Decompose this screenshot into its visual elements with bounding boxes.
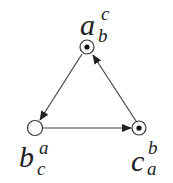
- label-node-b: b a c: [19, 142, 34, 172]
- label-superscript: b: [148, 138, 158, 157]
- label-superscript: c: [101, 4, 109, 23]
- label-superscript: a: [39, 138, 49, 157]
- node-b: [28, 121, 43, 136]
- label-base: a: [80, 8, 95, 41]
- label-node-a: a c b: [80, 10, 95, 40]
- label-base: c: [131, 144, 144, 177]
- node-a: [80, 40, 94, 54]
- label-subscript: c: [37, 159, 45, 178]
- label-base: b: [19, 140, 34, 173]
- node-c: [132, 121, 146, 135]
- label-subscript: b: [98, 26, 108, 45]
- label-node-c: c b a: [131, 146, 144, 176]
- edge-a-to-b: [40, 54, 82, 120]
- dot-icon: [84, 44, 89, 49]
- dot-icon: [136, 125, 141, 130]
- edge-c-to-a: [93, 55, 136, 121]
- label-subscript: a: [147, 159, 157, 178]
